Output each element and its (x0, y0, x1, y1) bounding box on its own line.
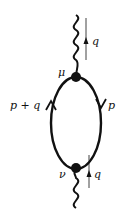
top-momentum-label: q (92, 35, 99, 48)
bottom-photon-line (74, 168, 79, 208)
bottom-vertex-label: ν (59, 168, 66, 181)
bottom-momentum-label: q (94, 168, 101, 181)
right-propagator-arrow-icon (96, 99, 106, 108)
top-momentum-arrow-icon (84, 37, 89, 44)
left-propagator-label: p + q (10, 99, 40, 112)
feynman-diagram: q μ ν p + q p q (0, 0, 126, 212)
bottom-momentum-arrow-icon (87, 170, 92, 177)
top-vertex-label: μ (58, 66, 65, 79)
top-vertex (71, 72, 81, 82)
top-photon-line (74, 15, 79, 76)
right-propagator-label: p (108, 99, 115, 112)
fermion-loop (51, 77, 101, 169)
